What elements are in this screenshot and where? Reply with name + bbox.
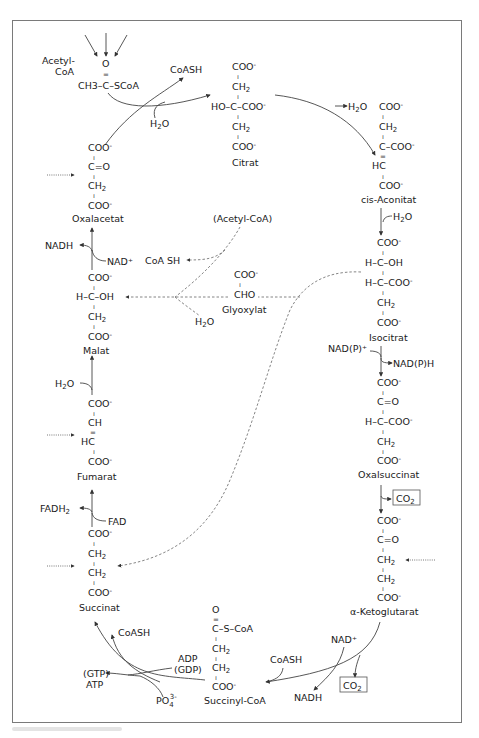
compound-citrat: COO- ı CH2 ı HO–C–COO- ı CH2 ı COO- Citr…	[211, 61, 266, 168]
acetyl-coa-oxygen: O	[102, 58, 109, 69]
co2-out-arrow-icon	[381, 496, 391, 499]
svg-text:ı: ı	[237, 113, 239, 121]
coash-in-label: CoASH	[270, 654, 302, 665]
svg-text:ı: ı	[382, 546, 384, 554]
svg-text:COO-: COO-	[88, 398, 113, 409]
water-in-dashed-path	[175, 297, 200, 316]
compound-fumarat: COO- ı CH = HC ı COO- Fumarat	[77, 398, 117, 482]
svg-text:COO-: COO-	[234, 269, 259, 280]
svg-text:CH: CH	[88, 417, 102, 428]
oxalacetat-name: Oxalacetat	[72, 213, 124, 224]
svg-text:CH2: CH2	[377, 573, 395, 586]
svg-text:CHO: CHO	[234, 289, 255, 300]
alpha-ketoglutarat-name: α-Ketoglutarat	[350, 606, 419, 617]
water-in-curve-icon	[80, 383, 92, 390]
compound-isocitrat: COO- ı H–C–OH ı H–C–COO- ı CH2 ı COO- Is…	[365, 237, 413, 343]
svg-text:O: O	[212, 604, 219, 615]
acetyl-coa-input: Acetyl- CoA O = CH3–C–SCoA	[42, 33, 139, 91]
co2-label-1: CO2	[396, 493, 415, 506]
adp-label: ADP	[178, 653, 198, 664]
svg-text:ı: ı	[93, 540, 95, 548]
glyoxylat-name: Glyoxylat	[222, 304, 267, 315]
svg-text:HC: HC	[81, 436, 95, 447]
coash-out-arrow-icon	[112, 635, 160, 682]
svg-text:ı: ı	[215, 635, 217, 643]
svg-text:COO-: COO-	[377, 237, 402, 248]
svg-text:ı: ı	[239, 281, 241, 289]
citric-acid-cycle-diagram: Acetyl- CoA O = CH3–C–SCoA CoASH H2O COO…	[0, 0, 479, 738]
svg-text:ı: ı	[93, 303, 95, 311]
fadh2-label: FADH2	[40, 503, 70, 516]
co2-out-arrow-icon	[355, 655, 360, 677]
compound-succinat: COO- ı CH2 ı CH2 ı COO- Succinat	[79, 528, 120, 613]
compound-succinyl-coa: O = C–S–CoA ı CH2 ı CH2 ı COO- Succinyl-…	[204, 604, 266, 706]
fadh2-out-arrow-icon	[80, 508, 92, 512]
input-arrow-icon	[115, 35, 127, 56]
malat-name: Malat	[83, 345, 109, 356]
svg-text:C=O: C=O	[377, 534, 399, 545]
svg-text:ı: ı	[237, 133, 239, 141]
nadph-label: NAD(P)H	[393, 358, 434, 369]
svg-text:COO-: COO-	[377, 377, 402, 388]
cis-aconitat-name: cis-Aconitat	[361, 194, 417, 205]
water-label: H2O	[150, 118, 169, 131]
svg-text:COO-: COO-	[88, 200, 113, 211]
svg-text:CH2: CH2	[232, 81, 250, 94]
svg-text:CH2: CH2	[377, 554, 395, 567]
co2-label-2: CO2	[343, 680, 362, 693]
svg-text:HC: HC	[372, 160, 386, 171]
svg-text:ı: ı	[382, 408, 384, 416]
coash-release-label: CoASH	[170, 64, 202, 75]
svg-text:ı: ı	[382, 289, 384, 297]
gdp-label: (GDP)	[174, 664, 202, 675]
svg-text:COO-: COO-	[377, 515, 402, 526]
svg-text:ı: ı	[93, 448, 95, 456]
nad-in-curve-icon	[92, 250, 106, 261]
svg-text:COO-: COO-	[88, 331, 113, 342]
fad-in-curve-icon	[92, 513, 106, 521]
double-bond: =	[103, 71, 109, 79]
svg-text:CH2: CH2	[88, 180, 106, 193]
citrat-name: Citrat	[232, 157, 259, 168]
svg-text:C–S–CoA: C–S–CoA	[212, 623, 254, 634]
svg-text:ı: ı	[93, 323, 95, 331]
succinat-coash-label: CoASH	[118, 627, 150, 638]
oxalsuccinat-name: Oxalsuccinat	[358, 469, 419, 480]
svg-text:COO-: COO-	[88, 272, 113, 283]
svg-text:COO-: COO-	[212, 681, 237, 692]
isocitrate-lyase-dashed-path	[290, 272, 361, 310]
svg-text:COO-: COO-	[377, 455, 402, 466]
fumarat-name: Fumarat	[77, 471, 117, 482]
nadp-plus-label: NAD(P)⁺	[328, 343, 367, 354]
svg-text:CH2: CH2	[232, 121, 250, 134]
shunt-coash-label: CoA SH	[145, 255, 180, 266]
svg-text:ı: ı	[382, 133, 384, 141]
shunt-water-label: H2O	[195, 316, 214, 329]
svg-text:COO-: COO-	[379, 180, 404, 191]
oxalacetat-nad-label: NAD⁺	[107, 256, 133, 267]
svg-text:ı: ı	[382, 113, 384, 121]
phosphate-label: PO43-	[156, 693, 177, 709]
svg-text:H–C–COO-: H–C–COO-	[365, 416, 413, 427]
shunt-acetyl-coa-label: (Acetyl-CoA)	[213, 213, 272, 224]
svg-text:H–C–OH: H–C–OH	[76, 291, 114, 302]
svg-text:ı: ı	[382, 309, 384, 317]
acetyl-coa-label-1: Acetyl-	[42, 55, 75, 66]
oxalacetat-nadh-label: NADH	[45, 240, 73, 251]
svg-text:HO–C–COO-: HO–C–COO-	[211, 101, 266, 112]
svg-text:ı: ı	[382, 428, 384, 436]
acetyl-coa-label-2: CoA	[55, 66, 74, 77]
coash-out-dashed-arrow-icon	[187, 250, 225, 260]
gtp-label: (GTP)	[83, 668, 109, 679]
svg-text:COO-: COO-	[88, 142, 113, 153]
malat-water-in: H2O	[55, 378, 74, 391]
oxidative-decarboxylation-arrow-icon	[266, 622, 380, 682]
atp-label: ATP	[86, 679, 104, 690]
succinyl-coa-name: Succinyl-CoA	[204, 695, 266, 706]
svg-text:CH2: CH2	[377, 297, 395, 310]
fad-label: FAD	[108, 516, 126, 527]
water-in-curve-icon	[383, 216, 392, 222]
svg-text:ı: ı	[382, 269, 384, 277]
cofactor-out-arrow-icon	[381, 358, 392, 363]
svg-text:C=O: C=O	[88, 161, 110, 172]
